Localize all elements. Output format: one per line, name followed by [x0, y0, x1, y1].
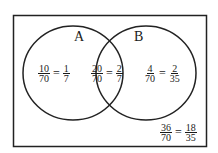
fraction: 2070	[91, 64, 103, 83]
region-b-only: 470 = 235	[144, 64, 181, 83]
fraction: 1835	[185, 123, 197, 142]
set-b-label: B	[134, 30, 143, 44]
region-a-and-b: 2070 = 27	[91, 64, 123, 83]
fraction: 17	[63, 64, 70, 83]
fraction: 27	[116, 64, 123, 83]
fraction: 235	[169, 64, 181, 83]
set-a-label: A	[74, 30, 84, 44]
fraction: 470	[144, 64, 156, 83]
region-neither: 3670 = 1835	[160, 123, 197, 142]
fraction: 3670	[160, 123, 172, 142]
region-a-only: 1070 = 17	[38, 64, 70, 83]
fraction: 1070	[38, 64, 50, 83]
